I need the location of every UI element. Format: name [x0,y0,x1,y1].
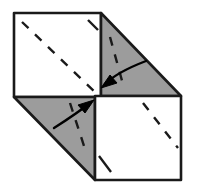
origami-fold-diagram [0,0,197,196]
origami-diagram-container [0,0,197,196]
